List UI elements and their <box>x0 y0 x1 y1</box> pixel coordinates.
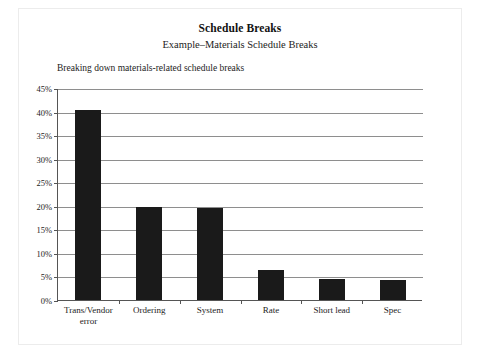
gridline <box>58 207 423 208</box>
chart-page: Schedule Breaks Example–Materials Schedu… <box>0 0 480 360</box>
x-axis-tick-label: Trans/Vendor error <box>64 305 113 327</box>
gridline <box>58 183 423 184</box>
gridline <box>58 230 423 231</box>
y-axis-tick-label: 5% <box>41 272 52 282</box>
x-axis-tick-label: Short lead <box>313 305 350 316</box>
y-axis-tick-mark <box>54 136 58 137</box>
y-axis-tick-mark <box>54 89 58 90</box>
y-axis-tick-mark <box>54 113 58 114</box>
y-axis-tick-label: 15% <box>36 225 52 235</box>
y-axis-tick-label: 30% <box>36 155 52 165</box>
y-axis-tick-label: 45% <box>36 84 52 94</box>
y-axis-tick-mark <box>54 254 58 255</box>
plot-area: 0%5%10%15%20%25%30%35%40%45% Trans/Vendo… <box>57 89 422 301</box>
bar <box>197 208 223 300</box>
x-axis-tick-mark <box>362 300 363 304</box>
y-axis-tick-mark <box>54 160 58 161</box>
bar <box>136 207 162 300</box>
chart-caption: Breaking down materials-related schedule… <box>57 63 244 73</box>
bar <box>258 270 284 300</box>
x-axis-tick-label: Spec <box>384 305 402 316</box>
y-axis-tick-label: 10% <box>36 249 52 259</box>
gridline <box>58 136 423 137</box>
y-axis-tick-label: 40% <box>36 108 52 118</box>
y-axis-tick-mark <box>54 230 58 231</box>
y-axis-tick-mark <box>54 277 58 278</box>
gridline <box>58 277 423 278</box>
gridline <box>58 254 423 255</box>
x-axis-tick-mark <box>180 300 181 304</box>
y-axis-tick-mark <box>54 301 58 302</box>
gridline <box>58 160 423 161</box>
y-axis-tick-label: 25% <box>36 178 52 188</box>
y-axis-tick-mark <box>54 183 58 184</box>
gridline <box>58 89 423 90</box>
x-axis-tick-label: System <box>197 305 224 316</box>
y-axis-tick-mark <box>54 207 58 208</box>
bar <box>319 279 345 300</box>
y-axis-tick-label: 35% <box>36 131 52 141</box>
x-axis-tick-mark <box>119 300 120 304</box>
chart-subtitle: Example–Materials Schedule Breaks <box>0 39 480 50</box>
page-title: Schedule Breaks <box>0 22 480 34</box>
x-axis-tick-label: Ordering <box>133 305 166 316</box>
gridline <box>58 113 423 114</box>
x-axis-tick-mark <box>241 300 242 304</box>
bar <box>380 280 406 300</box>
x-axis-tick-mark <box>301 300 302 304</box>
x-axis-tick-label: Rate <box>263 305 280 316</box>
y-axis-tick-label: 20% <box>36 202 52 212</box>
y-axis-tick-label: 0% <box>41 296 52 306</box>
bar <box>75 110 101 300</box>
